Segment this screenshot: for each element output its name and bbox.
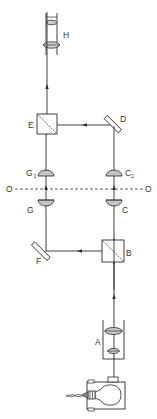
interferometer-diagram: H E D G 1 C 1 O O G C F (0, 0, 157, 419)
arrow-up-icon (112, 185, 115, 190)
arrow-left-icon (82, 123, 87, 126)
eyepiece-h (43, 13, 60, 55)
arrow-up-icon (112, 294, 115, 299)
arrow-up-icon (44, 185, 47, 190)
power-cord (66, 395, 83, 396)
lens-c1 (106, 170, 122, 176)
label-g1: G (26, 168, 33, 178)
lens-g (38, 200, 54, 206)
label-b: B (126, 248, 132, 258)
label-f: F (36, 256, 41, 266)
label-a: A (95, 337, 101, 347)
label-g: G (27, 205, 34, 215)
label-o-right: O (145, 184, 152, 194)
label-g1-subscript: 1 (34, 173, 37, 179)
lens-c (106, 200, 122, 206)
arrow-up-icon (45, 84, 48, 89)
label-e: E (28, 120, 34, 130)
label-h: H (63, 30, 69, 40)
label-c: C (122, 205, 128, 215)
label-o-left: O (6, 184, 13, 194)
arrow-left-icon (77, 249, 82, 252)
mirror-d (104, 116, 121, 133)
label-c1-subscript: 1 (131, 173, 134, 179)
beam-splitter-b (102, 240, 124, 262)
lens-g1 (38, 170, 54, 176)
condenser-a (103, 320, 124, 359)
beam-combiner-e (37, 114, 57, 134)
label-d: D (120, 114, 126, 124)
